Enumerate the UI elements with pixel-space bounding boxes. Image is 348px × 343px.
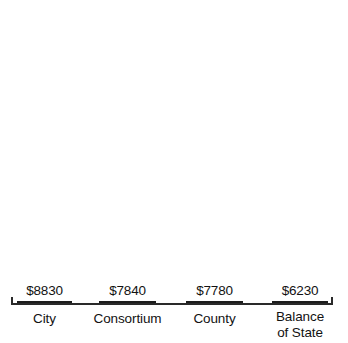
plot-area: $8830 $7840 $7780 $6230 City	[0, 0, 348, 343]
bar-group-2: $7840	[99, 57, 156, 303]
bar-value-label: $8830	[26, 283, 63, 298]
bar-group-1: $8830	[17, 23, 72, 303]
x-axis-label-line2: of State	[268, 325, 332, 341]
bar-value-label: $6230	[282, 283, 319, 298]
x-axis-right-cap	[331, 297, 333, 305]
x-axis-label-consortium: Consortium	[84, 311, 171, 327]
x-axis-label-balance-of-state: Balance of State	[268, 309, 332, 341]
x-axis-label-line1: County	[193, 311, 235, 326]
bar-value-label: $7780	[196, 283, 233, 298]
x-axis-label-line1: Balance	[276, 309, 324, 324]
x-axis-left-cap	[11, 297, 13, 305]
x-axis-label-line1: Consortium	[93, 311, 161, 326]
x-axis-label-county: County	[182, 311, 247, 327]
bar-chart: $8830 $7840 $7780 $6230 City	[0, 0, 348, 343]
bar-group-3: $7780	[186, 58, 243, 303]
bar-value-label: $7840	[109, 283, 146, 298]
x-axis-label-city: City	[17, 311, 72, 327]
x-axis-line	[11, 303, 333, 305]
x-axis-label-line1: City	[33, 311, 56, 326]
bar-group-4: $6230	[272, 107, 328, 303]
